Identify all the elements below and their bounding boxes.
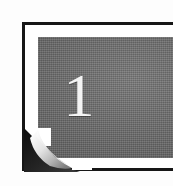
page-curl-svg (22, 124, 92, 176)
page-curl (22, 124, 92, 176)
chapter-number-graphic: 1 (0, 0, 173, 186)
curl-bottom-strip (72, 165, 92, 170)
chapter-numeral: 1 (56, 63, 102, 127)
frame-rule-top (22, 22, 173, 25)
